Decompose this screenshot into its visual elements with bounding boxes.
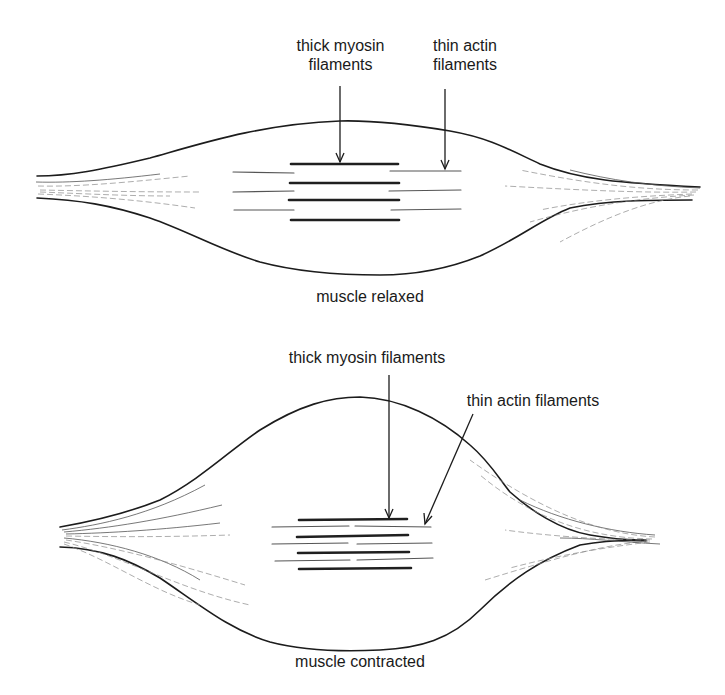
contracted-caption: muscle contracted bbox=[275, 652, 445, 671]
relaxed-thin-label-line1: thin actin bbox=[425, 36, 505, 55]
contracted-muscle bbox=[60, 375, 660, 651]
relaxed-thin-actin-label: thin actin filaments bbox=[425, 36, 505, 74]
contracted-thin-actin-label: thin actin filaments bbox=[448, 391, 618, 410]
relaxed-thick-label-line1: thick myosin bbox=[278, 36, 403, 55]
relaxed-caption: muscle relaxed bbox=[300, 287, 440, 306]
relaxed-thin-label-line2: filaments bbox=[425, 55, 505, 74]
relaxed-thick-label-line2: filaments bbox=[278, 55, 403, 74]
relaxed-muscle bbox=[36, 86, 700, 275]
contracted-thick-myosin-label: thick myosin filaments bbox=[272, 348, 462, 367]
muscle-contraction-diagram: thick myosin filaments thin actin filame… bbox=[0, 0, 725, 695]
relaxed-thick-myosin-label: thick myosin filaments bbox=[278, 36, 403, 74]
